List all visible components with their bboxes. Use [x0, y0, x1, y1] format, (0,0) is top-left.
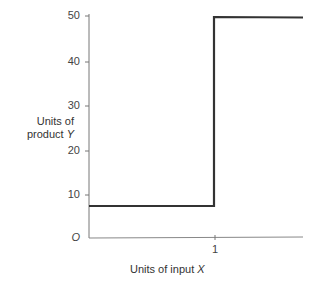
x-tick-label-1: 1 — [212, 243, 218, 255]
y-axis-title-line2: product Y — [4, 128, 74, 141]
x-axis-title-text: Units of input — [130, 263, 197, 275]
y-tick-label-50: 50 — [50, 9, 80, 21]
y-tick-label-20: 20 — [50, 144, 80, 156]
y-axis-title-line1: Units of — [4, 115, 74, 128]
x-axis-variable: X — [197, 263, 204, 275]
chart-plot-area — [0, 0, 312, 288]
y-axis-title-text: product — [27, 128, 67, 140]
y-tick-label-30: 30 — [50, 99, 80, 111]
y-tick-label-40: 40 — [50, 55, 80, 67]
origin-label: O — [50, 231, 80, 243]
y-ticks — [85, 16, 89, 195]
y-axis-title: Units of product Y — [4, 115, 74, 141]
step-line-series — [89, 17, 303, 206]
y-axis-variable: Y — [67, 128, 74, 140]
y-tick-label-10: 10 — [50, 188, 80, 200]
x-axis-title: Units of input X — [130, 263, 205, 275]
x-axis — [89, 237, 303, 238]
